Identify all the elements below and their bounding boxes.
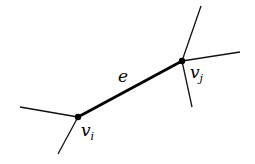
edge-e [78,61,182,117]
edge-vi-left [20,107,78,117]
edge-vj-up [182,6,201,61]
vertex-i-label: vi [81,120,94,143]
edge-label: e [118,66,128,86]
vertex-j-label: vj [190,62,204,85]
graph-svg: e vi vj [0,0,255,164]
edge-vj-right [182,52,240,61]
graph-diagram: e vi vj [0,0,255,164]
edge-vi-down [58,117,78,154]
vertex-vj [179,58,185,64]
